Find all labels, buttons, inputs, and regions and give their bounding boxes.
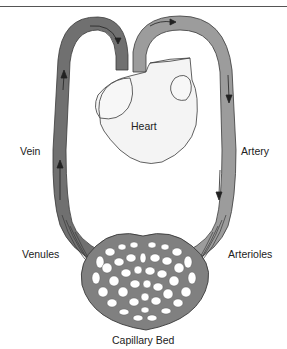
left-atrium (171, 75, 192, 100)
arterioles-label: Arterioles (228, 248, 272, 260)
heart (95, 58, 197, 164)
artery-label: Artery (241, 145, 269, 157)
capillary-bed-label: Capillary Bed (112, 334, 174, 346)
capillary-bed (81, 234, 208, 330)
heart-label: Heart (131, 120, 157, 132)
venules-label: Venules (22, 248, 59, 260)
vein-label: Vein (20, 145, 40, 157)
circulation-diagram (0, 0, 287, 349)
